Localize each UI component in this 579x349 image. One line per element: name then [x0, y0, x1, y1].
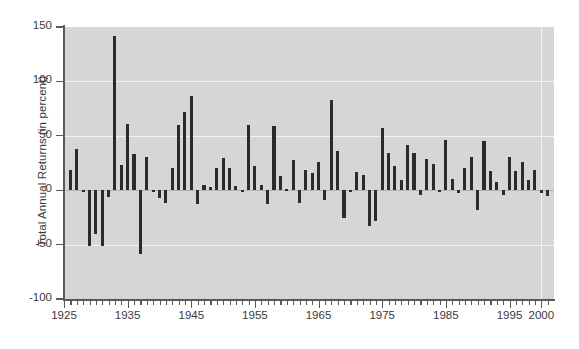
x-axis-tick-minor	[274, 300, 275, 305]
x-axis-tick-minor	[344, 300, 345, 305]
x-axis-tick-minor	[433, 300, 434, 305]
x-axis-tick-label: 1985	[433, 309, 459, 321]
x-axis-tick-major	[319, 300, 320, 308]
x-axis-tick-minor	[350, 300, 351, 305]
x-axis-tick-minor	[96, 300, 97, 305]
bar	[482, 141, 485, 190]
x-axis-tick-minor	[338, 300, 339, 305]
x-axis-tick-minor	[440, 300, 441, 305]
gridline-horizontal	[64, 81, 554, 82]
bar	[451, 179, 454, 190]
x-axis-tick-major	[64, 300, 65, 308]
x-axis-tick-minor	[376, 300, 377, 305]
x-axis-tick-minor	[522, 300, 523, 305]
x-axis-tick-minor	[465, 300, 466, 305]
bar	[527, 180, 530, 190]
bar	[330, 100, 333, 190]
x-axis-tick-minor	[363, 300, 364, 305]
x-axis-tick-minor	[102, 300, 103, 305]
x-axis-tick-minor	[204, 300, 205, 305]
bar	[152, 190, 155, 192]
bar	[349, 190, 352, 192]
bar	[368, 190, 371, 226]
x-axis-tick-minor	[357, 300, 358, 305]
bar	[540, 190, 543, 193]
zero-line	[64, 190, 554, 191]
bar	[387, 153, 390, 190]
bar	[69, 170, 72, 191]
x-axis-tick-minor	[223, 300, 224, 305]
bar	[202, 185, 205, 190]
x-axis-tick-minor	[147, 300, 148, 305]
x-axis-tick-minor	[408, 300, 409, 305]
x-axis-tick-minor	[325, 300, 326, 305]
bar	[171, 168, 174, 190]
y-axis-tick	[56, 190, 64, 191]
bar	[521, 162, 524, 190]
y-axis-tick-label: 100	[0, 73, 52, 85]
bar	[164, 190, 167, 203]
y-axis-tick-label: -50	[0, 237, 52, 249]
bar	[323, 190, 326, 200]
bar	[355, 172, 358, 191]
bar	[476, 190, 479, 210]
bar	[393, 166, 396, 190]
bar	[285, 189, 288, 191]
bar	[139, 190, 142, 254]
gridline-horizontal	[64, 136, 554, 137]
x-axis-tick-minor	[70, 300, 71, 305]
bar	[425, 159, 428, 191]
bar	[158, 190, 161, 198]
y-axis-tick	[56, 26, 64, 27]
bar	[228, 168, 231, 190]
bar	[470, 157, 473, 191]
x-axis-tick-minor	[242, 300, 243, 305]
y-axis-tick	[56, 81, 64, 82]
x-axis-tick-minor	[179, 300, 180, 305]
x-axis-tick-minor	[516, 300, 517, 305]
bar	[514, 171, 517, 191]
x-axis-tick-minor	[140, 300, 141, 305]
x-axis-tick-minor	[268, 300, 269, 305]
bar	[272, 126, 275, 190]
x-axis-tick-minor	[153, 300, 154, 305]
bar	[101, 190, 104, 246]
x-axis-tick-minor	[529, 300, 530, 305]
x-axis-tick-minor	[90, 300, 91, 305]
x-axis-tick-minor	[249, 300, 250, 305]
x-axis-tick-major	[510, 300, 511, 308]
x-axis-tick-minor	[306, 300, 307, 305]
bar	[463, 168, 466, 190]
bar	[279, 176, 282, 190]
bar	[266, 190, 269, 204]
bar	[381, 128, 384, 190]
y-axis-tick	[56, 135, 64, 136]
x-axis-tick-minor	[389, 300, 390, 305]
x-axis-tick-minor	[217, 300, 218, 305]
x-axis-tick-label: 1955	[242, 309, 268, 321]
bar	[260, 185, 263, 190]
x-axis-tick-minor	[185, 300, 186, 305]
y-axis-tick-label: 0	[0, 182, 52, 194]
bar	[419, 190, 422, 194]
plot-area	[64, 27, 554, 299]
bar	[215, 168, 218, 190]
bar	[317, 162, 320, 190]
bar	[438, 190, 441, 192]
chart-figure: Total Annual Returns (in percent) -100-5…	[0, 0, 579, 349]
x-axis-tick-label: 1945	[179, 309, 205, 321]
x-axis-tick-minor	[427, 300, 428, 305]
bar	[132, 154, 135, 190]
x-axis-tick-minor	[83, 300, 84, 305]
bar	[75, 149, 78, 190]
bar	[406, 145, 409, 191]
bar	[94, 190, 97, 234]
bar	[120, 165, 123, 190]
bar	[196, 190, 199, 204]
bar	[489, 171, 492, 191]
bar	[82, 190, 85, 192]
x-axis-tick-minor	[459, 300, 460, 305]
bar	[241, 190, 244, 192]
x-axis-tick-label: 1975	[369, 309, 395, 321]
bar	[311, 173, 314, 190]
